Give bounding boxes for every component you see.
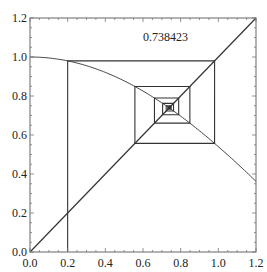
y-tick-label: 1.2 <box>12 11 27 25</box>
x-tick-label: 0.2 <box>60 256 75 270</box>
x-tick-label: 1.0 <box>211 256 226 270</box>
y-tick-label: 1.0 <box>12 50 27 64</box>
x-axis-tick-labels: 0.00.20.40.60.81.01.2 <box>23 256 264 270</box>
y-tick-label: 0.6 <box>12 128 27 142</box>
y-tick-label: 0.0 <box>12 245 27 259</box>
fixed-point-annotation: 0.738423 <box>143 30 188 44</box>
y-tick-label: 0.2 <box>12 206 27 220</box>
x-tick-label: 0.4 <box>98 256 113 270</box>
x-tick-label: 0.6 <box>136 256 151 270</box>
y-tick-label: 0.8 <box>12 89 27 103</box>
identity-line <box>30 18 256 252</box>
cosine-curve <box>30 57 256 181</box>
x-tick-label: 0.8 <box>173 256 188 270</box>
y-axis-tick-labels: 0.00.20.40.60.81.01.2 <box>12 11 27 259</box>
x-tick-label: 1.2 <box>249 256 264 270</box>
plot-area <box>30 18 256 252</box>
cobweb-chart: 0.00.20.40.60.81.01.2 0.00.20.40.60.81.0… <box>0 0 267 272</box>
y-tick-label: 0.4 <box>12 167 27 181</box>
